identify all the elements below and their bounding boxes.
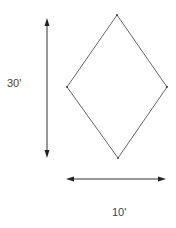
height-label: 30'	[7, 77, 21, 89]
vertical-dimension-arrow	[45, 18, 50, 158]
width-label: 10'	[112, 206, 126, 218]
vertex-right	[166, 86, 168, 88]
vertex-left	[66, 86, 68, 88]
horizontal-dimension-arrow	[66, 177, 166, 182]
diagram-canvas	[0, 0, 176, 228]
vertex-top	[116, 14, 118, 16]
vertex-bottom	[117, 157, 119, 159]
rhombus-shape	[67, 15, 167, 158]
